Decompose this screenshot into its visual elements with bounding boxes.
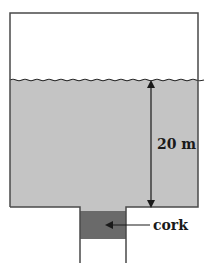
- tank-outline-left-bottom: [10, 207, 80, 263]
- depth-label: 20 m: [157, 136, 196, 152]
- cork-label: cork: [153, 217, 188, 233]
- tank-diagram: 20 m cork: [0, 0, 208, 273]
